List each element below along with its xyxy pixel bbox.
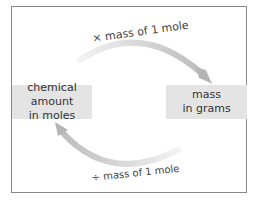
node-mass: mass in grams [166,85,247,119]
node-label-line1: mass [192,88,221,102]
multiply-arrow [80,43,213,84]
node-chemical-amount: chemical amount in moles [12,85,92,119]
divide-arrow [55,122,178,164]
node-label-line2: in grams [182,102,230,116]
node-label-line2: in moles [29,109,76,123]
node-label-line1: chemical amount [12,81,92,109]
